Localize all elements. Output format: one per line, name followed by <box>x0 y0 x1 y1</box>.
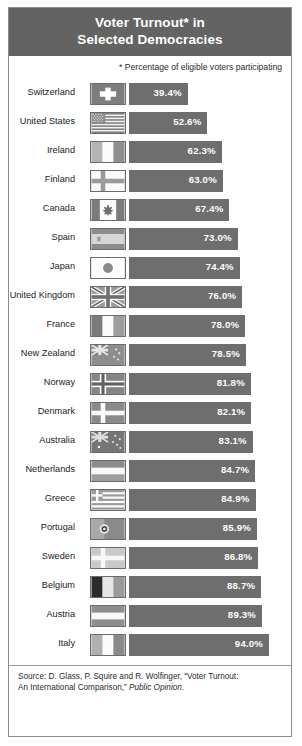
bar-row: Denmark82.1% <box>9 399 291 428</box>
flag-canada-icon <box>90 199 126 221</box>
turnout-bar: 73.0% <box>129 228 238 250</box>
turnout-bar: 83.1% <box>129 431 253 453</box>
turnout-bar: 81.8% <box>129 373 251 395</box>
flag-france-icon <box>90 315 126 337</box>
source-line-2: An International Comparison,” Public Opi… <box>18 682 282 693</box>
turnout-value-label: 81.8% <box>217 377 245 388</box>
country-label: Austria <box>0 609 75 619</box>
source-line-1: Source: D. Glass, P. Squire and R. Wolfi… <box>18 671 282 682</box>
flag-belgium-icon <box>90 576 126 598</box>
turnout-value-label: 94.0% <box>235 638 263 649</box>
turnout-value-label: 78.0% <box>211 319 239 330</box>
turnout-bar: 67.4% <box>129 199 229 221</box>
turnout-value-label: 39.4% <box>154 87 182 98</box>
country-label: Australia <box>0 435 75 445</box>
turnout-bar: 74.4% <box>129 257 240 279</box>
country-label: Portugal <box>0 522 75 532</box>
turnout-bar: 63.0% <box>129 170 223 192</box>
bar-row: Canada67.4% <box>9 196 291 225</box>
turnout-bar: 84.9% <box>129 489 256 511</box>
flag-sweden-icon <box>90 547 126 569</box>
turnout-bar: 94.0% <box>129 634 269 656</box>
chart-title-band: Voter Turnout* in Selected Democracies <box>9 8 291 56</box>
country-label: Norway <box>0 377 75 387</box>
country-label: United Kingdom <box>0 290 75 300</box>
flag-denmark-icon <box>90 402 126 424</box>
flag-japan-icon <box>90 257 126 279</box>
bar-row: Netherlands84.7% <box>9 457 291 486</box>
turnout-value-label: 85.9% <box>223 522 251 533</box>
bar-row: Ireland62.3% <box>9 138 291 167</box>
country-label: United States <box>0 116 75 126</box>
source-line-2-suffix: . <box>182 683 184 692</box>
bar-row: Greece84.9% <box>9 486 291 515</box>
country-label: Switzerland <box>0 87 75 97</box>
turnout-value-label: 62.3% <box>188 145 216 156</box>
flag-united-states-icon <box>90 112 126 134</box>
flag-norway-icon <box>90 373 126 395</box>
bar-row: Belgium88.7% <box>9 573 291 602</box>
country-label: Denmark <box>0 406 75 416</box>
country-label: New Zealand <box>0 348 75 358</box>
bar-row: United Kingdom76.0% <box>9 283 291 312</box>
bar-row: Finland63.0% <box>9 167 291 196</box>
bar-row: Italy94.0% <box>9 631 291 660</box>
turnout-bar: 62.3% <box>129 141 222 163</box>
country-label: France <box>0 319 75 329</box>
bar-row: Switzerland39.4% <box>9 80 291 109</box>
country-label: Netherlands <box>0 464 75 474</box>
turnout-bar: 78.5% <box>129 344 246 366</box>
turnout-bar: 78.0% <box>129 315 245 337</box>
flag-finland-icon <box>90 170 126 192</box>
turnout-bar: 88.7% <box>129 576 261 598</box>
turnout-value-label: 67.4% <box>195 203 223 214</box>
flag-australia-icon <box>90 431 126 453</box>
bar-row: Spain73.0% <box>9 225 291 254</box>
turnout-value-label: 82.1% <box>217 406 245 417</box>
turnout-value-label: 86.8% <box>224 551 252 562</box>
country-label: Canada <box>0 203 75 213</box>
turnout-value-label: 74.4% <box>206 261 234 272</box>
turnout-bar: 82.1% <box>129 402 251 424</box>
turnout-value-label: 84.9% <box>221 493 249 504</box>
turnout-bar: 84.7% <box>129 460 255 482</box>
chart-plot-area: * Percentage of eligible voters particip… <box>9 56 291 700</box>
country-label: Finland <box>0 174 75 184</box>
flag-austria-icon <box>90 605 126 627</box>
flag-italy-icon <box>90 634 126 656</box>
bar-row: Japan74.4% <box>9 254 291 283</box>
country-label: Japan <box>0 261 75 271</box>
chart-subtitle-note: * Percentage of eligible voters particip… <box>9 56 291 79</box>
flag-united-kingdom-icon <box>90 286 126 308</box>
turnout-bar: 89.3% <box>129 605 262 627</box>
source-publication-title: Public Opinion <box>129 683 182 692</box>
turnout-value-label: 89.3% <box>228 609 256 620</box>
bar-row: Portugal85.9% <box>9 515 291 544</box>
turnout-bar: 85.9% <box>129 518 257 540</box>
turnout-value-label: 88.7% <box>227 580 255 591</box>
bar-row: United States52.6% <box>9 109 291 138</box>
flag-new-zealand-icon <box>90 344 126 366</box>
bar-row: France78.0% <box>9 312 291 341</box>
turnout-bar: 39.4% <box>129 83 188 105</box>
country-label: Belgium <box>0 580 75 590</box>
flag-netherlands-icon <box>90 460 126 482</box>
page-title-line-1: Voter Turnout* in <box>15 15 285 32</box>
turnout-value-label: 63.0% <box>189 174 217 185</box>
turnout-bar: 76.0% <box>129 286 242 308</box>
turnout-value-label: 73.0% <box>204 232 232 243</box>
flag-ireland-icon <box>90 141 126 163</box>
bar-rows-list: Switzerland39.4%United States52.6%Irelan… <box>9 79 291 660</box>
turnout-value-label: 52.6% <box>173 116 201 127</box>
turnout-value-label: 83.1% <box>219 435 247 446</box>
country-label: Italy <box>0 638 75 648</box>
bar-row: Sweden86.8% <box>9 544 291 573</box>
bar-row: Norway81.8% <box>9 370 291 399</box>
turnout-value-label: 84.7% <box>221 464 249 475</box>
source-citation: Source: D. Glass, P. Squire and R. Wolfi… <box>9 666 291 700</box>
country-label: Sweden <box>0 551 75 561</box>
source-line-2-prefix: An International Comparison,” <box>18 683 129 692</box>
turnout-bar: 86.8% <box>129 547 258 569</box>
flag-switzerland-icon <box>90 83 126 105</box>
bar-row: New Zealand78.5% <box>9 341 291 370</box>
